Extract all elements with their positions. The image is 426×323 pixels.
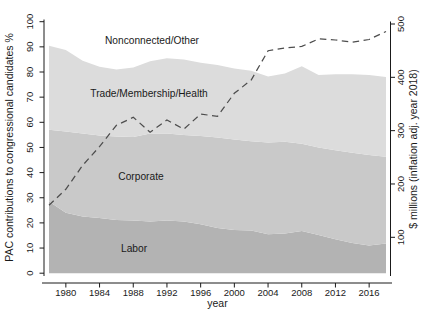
y-left-tick-label: 10 bbox=[24, 243, 35, 254]
x-tick-label: 2012 bbox=[325, 287, 346, 298]
area-label-labor: Labor bbox=[121, 243, 148, 254]
x-tick-label: 1992 bbox=[156, 287, 177, 298]
x-tick-label: 1988 bbox=[123, 287, 144, 298]
y-left-tick-label: 70 bbox=[24, 92, 35, 103]
x-tick-label: 1984 bbox=[89, 287, 110, 298]
area-label-nonconnected: Nonconnected/Other bbox=[105, 35, 200, 46]
y-right-tick-label: 400 bbox=[395, 69, 406, 85]
y-left-tick-label: 0 bbox=[24, 271, 35, 276]
stacked-areas bbox=[49, 46, 386, 273]
x-axis-title: year bbox=[207, 297, 228, 309]
y-left-tick-label: 40 bbox=[24, 167, 35, 178]
pac-contributions-chart: 0102030405060708090100198019841988199219… bbox=[0, 0, 426, 323]
y-left-tick-label: 30 bbox=[24, 193, 35, 204]
y-left-tick-label: 60 bbox=[24, 117, 35, 128]
y-left-tick-label: 100 bbox=[24, 14, 35, 30]
area-label-corporate: Corporate bbox=[118, 171, 164, 182]
figure: 0102030405060708090100198019841988199219… bbox=[0, 0, 426, 323]
area-label-trade: Trade/Membership/Health bbox=[90, 88, 207, 99]
x-tick-label: 2000 bbox=[224, 287, 245, 298]
y-right-tick-label: 100 bbox=[395, 229, 406, 245]
x-tick-label: 1996 bbox=[190, 287, 211, 298]
x-tick-label: 2008 bbox=[291, 287, 312, 298]
y-left-tick-label: 80 bbox=[24, 67, 35, 78]
y-right-axis-title: $ millions (inflation adj. year 2018) bbox=[407, 69, 419, 228]
y-right-tick-label: 500 bbox=[395, 16, 406, 32]
y-left-tick-label: 50 bbox=[24, 142, 35, 153]
x-tick-label: 2016 bbox=[359, 287, 380, 298]
y-right-tick-label: 300 bbox=[395, 123, 406, 139]
y-left-tick-label: 20 bbox=[24, 218, 35, 229]
y-left-tick-label: 90 bbox=[24, 42, 35, 53]
x-tick-label: 2004 bbox=[258, 287, 279, 298]
y-right-tick-label: 200 bbox=[395, 176, 406, 192]
y-left-axis-title: PAC contributions to congressional candi… bbox=[3, 33, 15, 262]
x-tick-label: 1980 bbox=[55, 287, 76, 298]
